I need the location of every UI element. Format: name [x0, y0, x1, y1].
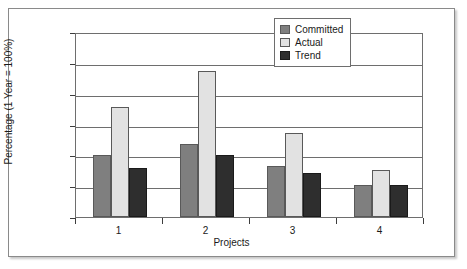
x-axis-tick-mark — [336, 218, 337, 224]
x-axis-tick-mark — [75, 218, 76, 224]
bar-committed-project-3 — [267, 166, 285, 217]
legend-label: Committed — [295, 24, 343, 35]
gridline — [76, 96, 422, 97]
bar-committed-project-1 — [93, 155, 111, 217]
gridline — [76, 65, 422, 66]
bar-trend-project-1 — [129, 168, 147, 217]
plot-area — [75, 33, 423, 218]
x-axis-tick-mark — [162, 218, 163, 224]
legend-swatch-icon — [280, 51, 290, 60]
bar-committed-project-4 — [354, 185, 372, 217]
x-axis-tick-label: 2 — [186, 225, 226, 236]
legend-item-trend: Trend — [280, 49, 343, 62]
bar-trend-project-3 — [303, 173, 321, 217]
y-axis-title: Percentage (1 Year = 100%) — [3, 9, 17, 194]
x-axis-tick-label: 4 — [360, 225, 400, 236]
bar-trend-project-4 — [390, 185, 408, 217]
bar-actual-project-3 — [285, 133, 303, 217]
legend-label: Trend — [295, 50, 321, 61]
legend-swatch-icon — [280, 38, 290, 47]
bar-actual-project-4 — [372, 170, 390, 217]
bar-committed-project-2 — [180, 144, 198, 217]
legend-swatch-icon — [280, 25, 290, 34]
x-axis-tick-label: 1 — [99, 225, 139, 236]
x-axis-tick-mark — [249, 218, 250, 224]
legend-item-actual: Actual — [280, 36, 343, 49]
legend-label: Actual — [295, 37, 323, 48]
bar-trend-project-2 — [216, 155, 234, 217]
x-axis-tick-label: 3 — [273, 225, 313, 236]
chart-figure: Percentage (1 Year = 100%) 0501001502002… — [8, 8, 455, 257]
bar-actual-project-1 — [111, 107, 129, 217]
bar-actual-project-2 — [198, 71, 216, 217]
x-axis-tick-mark — [423, 218, 424, 224]
legend-item-committed: Committed — [280, 23, 343, 36]
chart-legend: CommittedActualTrend — [274, 18, 351, 67]
x-axis-title: Projects — [9, 237, 454, 248]
